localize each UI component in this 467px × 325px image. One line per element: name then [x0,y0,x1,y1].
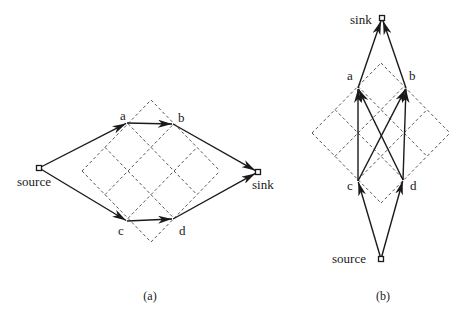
edge-b-to-sink-arrow [173,124,255,171]
lattice-line [151,100,220,171]
node-label-source: source [17,174,51,189]
edge-source-to-c-arrow [358,182,381,259]
lattice-line [128,147,197,218]
edge-source-to-d-arrow [381,181,403,259]
node-label-sink: sink [252,177,274,192]
source-node-icon [379,257,384,262]
lattice-line [381,63,450,133]
panel-caption-a: (a) [143,289,156,303]
node-label-a: a [120,108,126,123]
node-label-a: a [347,68,353,83]
node-label-sink: sink [350,12,372,27]
panel-caption-b: (b) [376,289,390,303]
node-label-b: b [178,110,185,125]
lattice-line [358,86,427,156]
node-label-b: b [409,68,416,83]
edge-d-to-sink-arrow [173,173,255,219]
source-node-icon [37,166,42,171]
dashed-lattice [82,100,220,242]
lattice-line [105,147,174,218]
sink-node-icon [256,170,261,175]
edge-source-to-a-arrow [39,123,126,168]
lattice-line [358,110,427,180]
edge-source-to-c-arrow [39,168,126,220]
edge-c-to-d-arrow [127,219,172,221]
lattice-line [82,171,151,242]
lattice-line [335,110,404,180]
edge-a-to-sink-arrow [358,21,381,88]
lattice-line [151,171,220,242]
node-label-d: d [410,178,417,193]
panel-a-diagram: sourceabcdsink(a) [17,100,274,303]
edge-a-to-b-arrow [127,123,172,124]
node-label-c: c [118,223,124,238]
edge-b-to-sink-arrow [383,21,406,88]
sink-node-icon [380,16,385,21]
node-label-d: d [179,223,186,238]
node-label-source: source [332,251,366,266]
dashed-lattice [312,63,450,203]
lattice-flow-diagram: sourceabcdsink(a) sinkabcdsource(b) [0,0,467,325]
panel-b-diagram: sinkabcdsource(b) [312,12,450,303]
lattice-line [128,124,197,195]
lattice-line [82,100,151,171]
figure-canvas: sourceabcdsink(a) sinkabcdsource(b) [0,0,467,325]
node-label-c: c [347,178,353,193]
lattice-line [105,124,174,195]
lattice-line [335,86,404,156]
